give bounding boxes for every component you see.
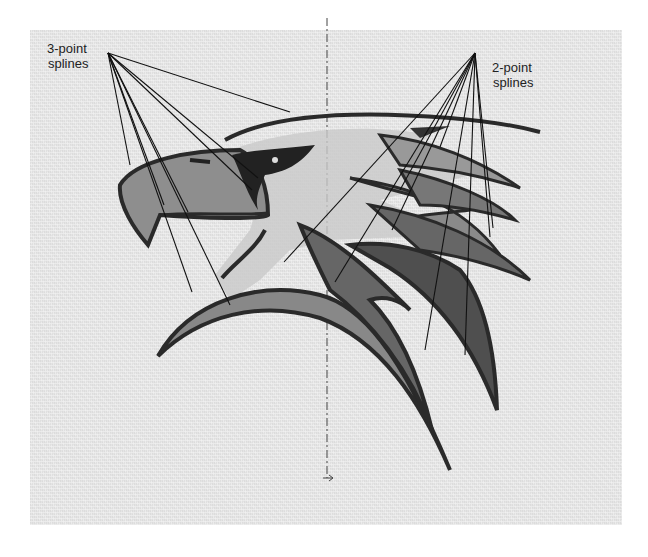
label-3-point-line2: splines: [47, 56, 88, 71]
label-2-point-splines: 2-point splines: [492, 60, 533, 90]
origin-marker-icon: [323, 475, 333, 481]
label-3-point-line1: 3-point: [47, 41, 88, 56]
nostril: [190, 160, 210, 162]
beak-mouth-line: [160, 213, 268, 215]
eagle-sketch: [0, 0, 648, 557]
label-2-point-line1: 2-point: [492, 60, 533, 75]
eye-highlight: [272, 157, 278, 163]
label-3-point-splines: 3-point splines: [47, 41, 88, 71]
lower-feather: [158, 290, 450, 470]
label-2-point-line2: splines: [492, 75, 533, 90]
